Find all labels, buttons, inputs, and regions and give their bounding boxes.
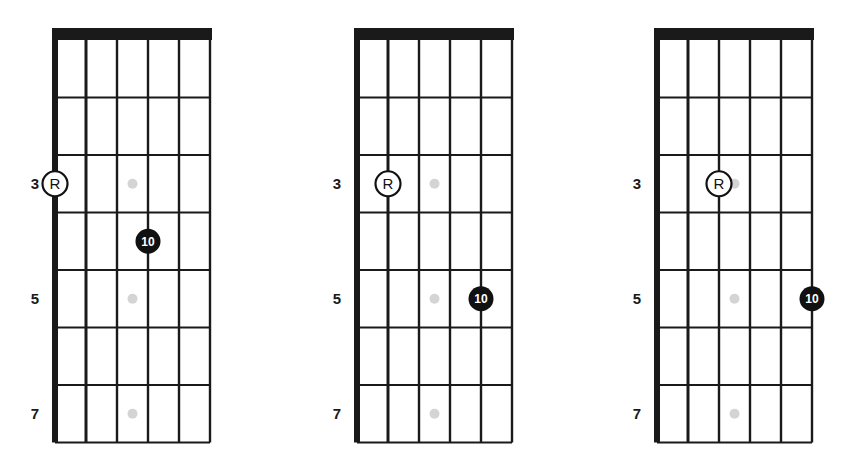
note-marker-interval: 10 — [136, 229, 161, 254]
root-marker-label: R — [714, 175, 725, 192]
fretboard-grid-3: 357R10 — [617, 0, 844, 471]
inlay-dot — [430, 294, 440, 304]
note-marker-interval: 10 — [800, 286, 825, 311]
inlay-dot — [128, 409, 138, 419]
fretboard-diagram-2: 357R10 — [317, 0, 577, 471]
fret-number-label: 3 — [633, 175, 641, 192]
nut — [355, 28, 514, 40]
fret-number-label: 5 — [31, 290, 39, 307]
inlay-dot — [730, 294, 740, 304]
fret-number-label: 3 — [333, 175, 341, 192]
note-marker-root: R — [376, 171, 401, 196]
note-marker-root: R — [43, 171, 68, 196]
fretboard-grid-1: 357R10 — [15, 0, 275, 471]
fretboard-diagram-board: 357R10357R10357R10 — [0, 0, 844, 471]
interval-marker-label: 10 — [141, 235, 155, 249]
fret-number-label: 5 — [633, 290, 641, 307]
fret-number-label: 7 — [333, 405, 341, 422]
fret-number-label: 7 — [31, 405, 39, 422]
fret-number-label: 3 — [31, 175, 39, 192]
interval-marker-label: 10 — [474, 292, 488, 306]
inlay-dot — [128, 179, 138, 189]
fret-number-label: 5 — [333, 290, 341, 307]
interval-marker-label: 10 — [805, 292, 819, 306]
note-marker-root: R — [707, 171, 732, 196]
nut — [655, 28, 814, 40]
fretboard-diagram-3: 357R10 — [617, 0, 844, 471]
inlay-dot — [730, 409, 740, 419]
inlay-dot — [128, 294, 138, 304]
inlay-dot — [430, 409, 440, 419]
nut — [53, 28, 212, 40]
fretboard-grid-2: 357R10 — [317, 0, 577, 471]
inlay-dot — [430, 179, 440, 189]
note-marker-interval: 10 — [469, 286, 494, 311]
root-marker-label: R — [50, 175, 61, 192]
root-marker-label: R — [383, 175, 394, 192]
fret-number-label: 7 — [633, 405, 641, 422]
fretboard-diagram-1: 357R10 — [15, 0, 275, 471]
